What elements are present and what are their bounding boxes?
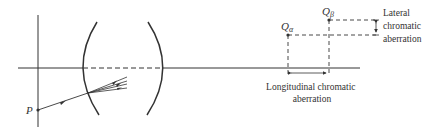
longitudinal-aberration-label: Longitudinal chromatic aberration bbox=[266, 82, 358, 104]
point-p-label: P bbox=[25, 104, 33, 116]
q-beta-label: Qβ bbox=[322, 5, 334, 19]
lateral-aberration-label: Lateral chromatic aberration bbox=[383, 8, 423, 44]
point-p-dot bbox=[36, 108, 39, 111]
incident-ray bbox=[38, 93, 88, 110]
chromatic-aberration-diagram: P Qα Qβ Lateral chromatic aberration Lon… bbox=[0, 0, 439, 129]
lateral-aberration-arrow bbox=[373, 20, 379, 35]
dispersed-rays bbox=[88, 77, 127, 93]
q-alpha-label: Qα bbox=[281, 20, 294, 34]
